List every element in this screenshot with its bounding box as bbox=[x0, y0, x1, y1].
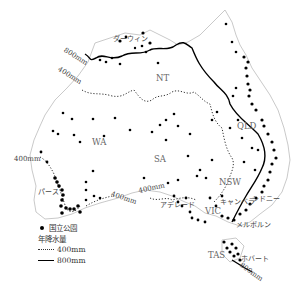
region-label-wa: WA bbox=[92, 138, 106, 147]
city-label-melbourne: メルボルン bbox=[236, 222, 271, 229]
solid-line-icon bbox=[38, 260, 54, 261]
legend-800mm: 800mm bbox=[38, 255, 86, 266]
coastline bbox=[30, 10, 290, 226]
legend-400mm: 400mm bbox=[38, 244, 86, 255]
region-label-vic: VIC bbox=[205, 207, 221, 216]
region-label-nt: NT bbox=[156, 74, 169, 83]
region-label-sa: SA bbox=[154, 155, 166, 164]
legend-park-label: 国立公園 bbox=[49, 222, 77, 233]
legend-national-park: 国立公園 bbox=[38, 222, 86, 233]
city-label-perth: パース bbox=[38, 189, 59, 196]
dotted-line-icon bbox=[38, 249, 54, 250]
legend-800-label: 800mm bbox=[57, 256, 86, 265]
region-label-qld: QLD bbox=[237, 122, 256, 131]
city-label-hobart: ホバート bbox=[241, 256, 269, 263]
isohyet-label-400-west: 400mm bbox=[14, 156, 41, 163]
legend-400-label: 400mm bbox=[57, 245, 86, 254]
city-label-adelaide: アデレード bbox=[160, 202, 195, 209]
legend-rainfall-label: 年降水量 bbox=[38, 233, 66, 244]
region-label-tas: TAS bbox=[208, 251, 225, 260]
isohyet-400mm-west bbox=[40, 157, 80, 212]
city-label-canberra: キャンベラ bbox=[220, 199, 255, 206]
region-label-nsw: NSW bbox=[219, 178, 241, 187]
legend-rainfall-title: 年降水量 bbox=[38, 233, 86, 244]
city-label-darwin: ダーウィン bbox=[113, 36, 148, 43]
map-legend: 国立公園 年降水量 400mm 800mm bbox=[38, 222, 86, 266]
city-label-sydney: シドニー bbox=[252, 196, 280, 203]
park-dot-icon bbox=[40, 226, 44, 230]
map-title bbox=[70, 0, 240, 6]
